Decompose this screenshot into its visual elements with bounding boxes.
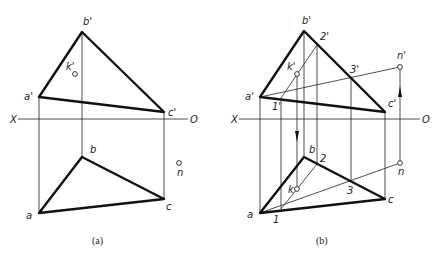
label-n-b: n: [398, 166, 404, 177]
label-b-prime: b': [83, 16, 92, 27]
point-k-b: [295, 187, 300, 192]
label-a: a: [26, 210, 32, 221]
label-2: 2: [320, 153, 326, 164]
top-triangle-a: [39, 157, 164, 213]
label-n: n: [177, 167, 183, 178]
panel-b: X O b' a' c' k' n' 1' 2': [230, 15, 430, 247]
label-k-prime: k': [66, 61, 75, 72]
front-triangle-a: [39, 32, 164, 112]
point-k-prime: [73, 72, 78, 77]
label-b: b: [90, 144, 96, 155]
label-c: c: [166, 201, 172, 212]
arrow-down-icon: [295, 131, 299, 142]
line-a-n-prime: [260, 67, 400, 97]
projection-diagram: X O b' a' c' k' b a c n (a) X O: [0, 0, 439, 259]
point-n-b: [398, 161, 403, 166]
point-n-prime: [398, 65, 403, 70]
point-n: [177, 161, 182, 166]
label-3: 3: [347, 185, 353, 196]
label-c-prime-b: c': [388, 98, 396, 109]
label-a-prime-b: a': [245, 91, 254, 102]
line-1-2: [281, 164, 317, 209]
point-k-prime-b: [295, 72, 300, 77]
label-2-prime: 2': [320, 31, 329, 42]
caption-b: (b): [316, 235, 328, 247]
label-1-prime: 1': [272, 101, 281, 112]
axis-x-label-a: X: [9, 114, 18, 125]
axis-o-label-a: O: [190, 114, 198, 125]
label-1: 1: [273, 214, 279, 225]
label-b-b: b: [309, 144, 315, 155]
arrow-up-icon: [398, 86, 402, 97]
label-c-b: c: [388, 194, 394, 205]
panel-a: X O b' a' c' k' b a c n (a): [9, 16, 198, 247]
axis-o-label-b: O: [422, 114, 430, 125]
label-3-prime: 3': [350, 64, 359, 75]
label-c-prime: c': [168, 107, 176, 118]
axis-x-label-b: X: [230, 114, 239, 125]
label-n-prime: n': [397, 50, 406, 61]
caption-a: (a): [92, 235, 103, 247]
label-b-prime-b: b': [302, 15, 311, 26]
front-triangle-b: [260, 31, 385, 112]
label-k-prime-b: k': [287, 61, 296, 72]
top-triangle-b: [260, 157, 385, 213]
label-a-b: a: [247, 209, 253, 220]
label-a-prime: a': [24, 91, 33, 102]
